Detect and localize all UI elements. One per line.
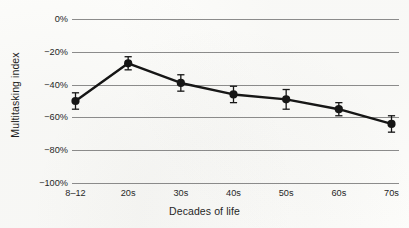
x-axis-tick-labels: 8–1220s30s40s50s60s70s <box>0 188 409 204</box>
data-point-marker <box>177 79 185 87</box>
data-point-marker <box>282 95 290 103</box>
data-point-marker <box>229 90 237 98</box>
data-point-marker <box>124 59 132 67</box>
x-tick-label: 70s <box>384 188 399 198</box>
x-tick-label: 40s <box>226 188 241 198</box>
data-point-marker <box>335 105 343 113</box>
x-tick-label: 8–12 <box>65 188 85 198</box>
data-point-marker <box>71 97 79 105</box>
x-axis-title: Decades of life <box>0 205 409 217</box>
chart-figure: Multitasking index 0%−20%−40%−60%−80%−10… <box>0 0 409 228</box>
data-point-marker <box>387 120 395 128</box>
gridlines <box>72 20 399 184</box>
x-tick-label: 60s <box>331 188 346 198</box>
x-tick-label: 50s <box>279 188 294 198</box>
x-tick-label: 20s <box>121 188 136 198</box>
x-tick-label: 30s <box>173 188 188 198</box>
